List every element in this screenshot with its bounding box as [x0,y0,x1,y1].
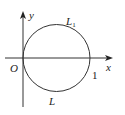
coordinate-diagram: y L1 O x 1 L [0,0,125,115]
x-axis-label: x [106,62,111,73]
lower-arc-label: L [49,96,55,107]
intercept-one-label: 1 [92,70,98,81]
upper-arc-label: L1 [66,16,76,29]
diagram-canvas [0,0,125,115]
y-axis-label: y [29,10,34,21]
upper-arc-subscript: 1 [72,21,76,29]
origin-label: O [10,63,18,74]
